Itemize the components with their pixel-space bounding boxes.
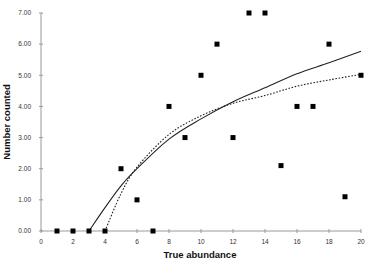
data-point-marker (103, 229, 108, 234)
y-tick-label: 1.00 (18, 196, 31, 203)
y-axis-title: Number counted (1, 84, 12, 160)
fit-curves (89, 51, 361, 231)
data-point-marker (247, 11, 252, 16)
data-point-marker (55, 229, 60, 234)
data-point-marker (359, 73, 364, 78)
data-point-marker (311, 104, 316, 109)
x-tick-label: 4 (103, 238, 107, 245)
x-tick-label: 12 (229, 238, 237, 245)
data-point-marker (215, 42, 220, 47)
x-tick-label: 14 (261, 238, 269, 245)
y-tick-label: 6.00 (18, 40, 31, 47)
solid-fit-curve (89, 51, 361, 231)
dotted-fit-curve (105, 74, 361, 231)
y-tick-label: 3.00 (18, 134, 31, 141)
data-point-marker (71, 229, 76, 234)
axes: 024681012141618200.001.002.003.004.005.0… (18, 9, 365, 245)
data-point-marker (231, 135, 236, 140)
data-point-marker (151, 229, 156, 234)
data-point-marker (199, 73, 204, 78)
y-tick-label: 4.00 (18, 103, 31, 110)
data-point-marker (327, 42, 332, 47)
y-tick-label: 5.00 (18, 72, 31, 79)
x-tick-label: 16 (293, 238, 301, 245)
x-tick-label: 10 (197, 238, 205, 245)
data-point-marker (183, 135, 188, 140)
data-point-marker (263, 11, 268, 16)
x-tick-label: 6 (135, 238, 139, 245)
y-tick-label: 0.00 (18, 227, 31, 234)
x-tick-label: 8 (167, 238, 171, 245)
x-tick-label: 18 (325, 238, 333, 245)
data-point-marker (295, 104, 300, 109)
x-tick-label: 2 (71, 238, 75, 245)
scatter-chart: 024681012141618200.001.002.003.004.005.0… (0, 0, 373, 264)
data-point-marker (167, 104, 172, 109)
x-axis-title: True abundance (164, 249, 237, 260)
x-tick-label: 0 (39, 238, 43, 245)
data-point-marker (343, 194, 348, 199)
x-tick-label: 20 (357, 238, 365, 245)
y-tick-label: 2.00 (18, 165, 31, 172)
data-point-marker (279, 163, 284, 168)
data-point-marker (87, 229, 92, 234)
data-points (55, 11, 364, 234)
data-point-marker (119, 166, 124, 171)
y-tick-label: 7.00 (18, 9, 31, 16)
data-point-marker (135, 197, 140, 202)
